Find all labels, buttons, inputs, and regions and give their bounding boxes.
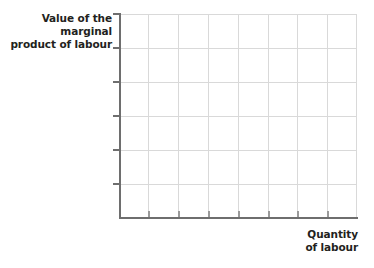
x-axis-tick: [327, 211, 329, 217]
grid-line-vertical: [356, 14, 357, 218]
grid-line-vertical: [148, 14, 149, 218]
grid-line-vertical: [208, 14, 209, 218]
y-axis-tick: [113, 115, 119, 117]
x-axis-label-line-1: Quantity: [238, 228, 358, 241]
y-axis-tick: [113, 81, 119, 83]
y-axis-line: [119, 13, 121, 219]
grid-line-vertical: [238, 14, 239, 218]
plot-area: [119, 14, 357, 218]
x-axis-line: [119, 217, 358, 219]
x-axis-tick: [148, 211, 150, 217]
x-axis-label-line-2: of labour: [238, 241, 358, 254]
y-axis-tick: [113, 183, 119, 185]
y-axis-label-line-1: Value of the marginal: [8, 12, 112, 38]
y-axis-label-line-2: product of labour: [8, 38, 112, 51]
y-axis-tick: [113, 47, 119, 49]
x-axis-tick: [268, 211, 270, 217]
chart-figure: Value of the marginal product of labour …: [0, 0, 374, 268]
x-axis-tick: [208, 211, 210, 217]
y-axis-tick: [113, 13, 119, 15]
x-axis-tick: [238, 211, 240, 217]
x-axis-label: Quantity of labour: [238, 228, 358, 254]
grid-line-vertical: [178, 14, 179, 218]
y-axis-label: Value of the marginal product of labour: [8, 12, 112, 51]
y-axis-tick: [113, 149, 119, 151]
x-axis-tick: [297, 211, 299, 217]
grid-line-vertical: [327, 14, 328, 218]
x-axis-tick: [178, 211, 180, 217]
grid-line-vertical: [297, 14, 298, 218]
grid-line-vertical: [268, 14, 269, 218]
